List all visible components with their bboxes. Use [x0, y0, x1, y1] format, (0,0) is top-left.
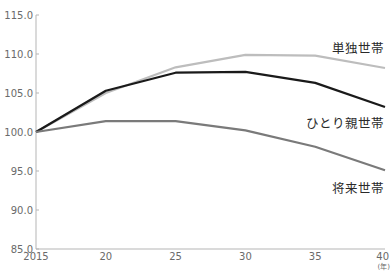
x-tick-label: 30 [239, 251, 252, 262]
series-label: 将来世帯 [332, 181, 384, 196]
x-tick-label: 2015 [23, 251, 48, 262]
line-chart: 85.090.095.0100.0105.0110.0115.0 2015202… [0, 0, 391, 276]
y-tick-label: 115.0 [4, 10, 33, 21]
series-lines [36, 55, 385, 170]
series-labels: 単独世帯ひとり親世帯将来世帯 [306, 41, 384, 196]
y-tick-label: 100.0 [4, 127, 33, 138]
series-label: 単独世帯 [332, 41, 384, 56]
y-tick-label: 90.0 [11, 205, 33, 216]
y-tick-label: 95.0 [11, 166, 33, 177]
y-axis-ticks: 85.090.095.0100.0105.0110.0115.0 [4, 10, 39, 255]
x-tick-label: 35 [309, 251, 322, 262]
y-tick-label: 105.0 [4, 88, 33, 99]
x-tick-label: 20 [99, 251, 112, 262]
x-tick-label: 40 [376, 251, 389, 262]
x-axis-ticks: 20152025303540(年) [23, 251, 390, 271]
x-tick-label: 25 [169, 251, 182, 262]
x-unit-label: (年) [378, 262, 391, 271]
series-label: ひとり親世帯 [306, 116, 384, 131]
y-tick-label: 110.0 [4, 49, 33, 60]
